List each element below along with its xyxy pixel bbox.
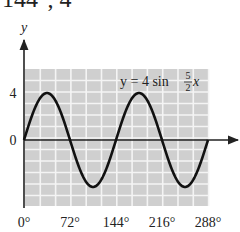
sine-chart: 0°72°144°216°288°04yy = 4 sin52x: [0, 0, 240, 232]
x-tick-label: 216°: [149, 215, 176, 230]
equation-variable: x: [192, 74, 200, 89]
x-tick-label: 144°: [103, 215, 130, 230]
x-tick-label: 288°: [195, 215, 222, 230]
equation-fraction-denominator: 2: [186, 82, 191, 93]
y-tick-label: 4: [10, 86, 17, 101]
equation-label: y = 4 sin: [120, 74, 169, 89]
y-tick-label: 0: [10, 133, 17, 148]
equation-fraction-numerator: 5: [186, 70, 191, 81]
x-tick-label: 0°: [18, 215, 31, 230]
x-tick-label: 72°: [60, 215, 80, 230]
y-axis-label: y: [19, 20, 28, 35]
